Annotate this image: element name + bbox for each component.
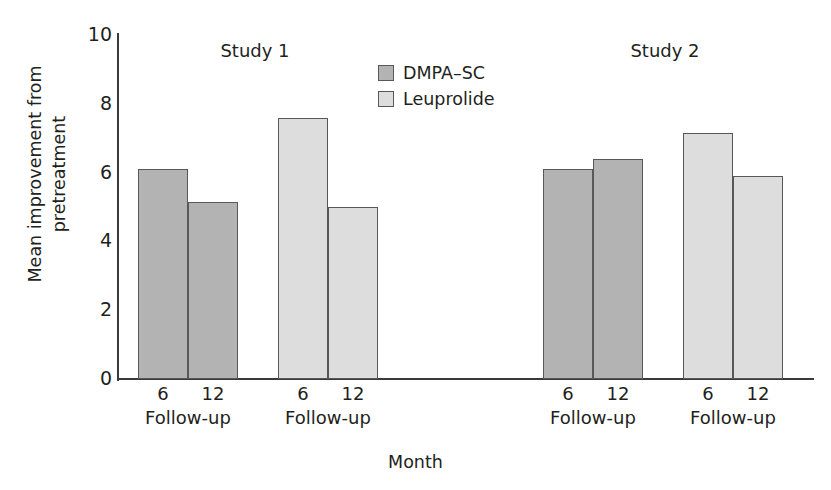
- x-tick-study2-leup-12: 12: [747, 384, 770, 404]
- x-axis-title: Month: [0, 452, 831, 472]
- y-tick-0: 0: [68, 369, 112, 388]
- x-tick-study1-dmpa-12: 12: [202, 384, 225, 404]
- bar-study2-leup-6: [683, 133, 733, 379]
- legend-label-leuprolide: Leuprolide: [403, 90, 495, 108]
- legend-swatch-icon-leuprolide: [378, 91, 394, 107]
- group-label-study2-leup: Follow-up: [690, 408, 776, 428]
- y-tick-6: 6: [68, 163, 112, 182]
- y-tick-10: 10: [68, 25, 112, 44]
- bar-study1-leup-12: [328, 207, 378, 379]
- y-tick-8: 8: [68, 94, 112, 113]
- y-tick-2: 2: [68, 300, 112, 319]
- bar-study2-dmpa-6: [543, 169, 593, 379]
- group-label-study1-leup: Follow-up: [285, 408, 371, 428]
- bar-study1-dmpa-12: [188, 202, 238, 379]
- group-label-study1-dmpa: Follow-up: [145, 408, 231, 428]
- legend-swatch-icon-dmpa-sc: [378, 65, 394, 81]
- x-tick-study1-leup-6: 6: [297, 384, 308, 404]
- legend-item-leuprolide: Leuprolide: [378, 88, 495, 110]
- x-tick-study2-dmpa-12: 12: [607, 384, 630, 404]
- bar-study2-dmpa-12: [593, 159, 643, 379]
- bar-study2-leup-12: [733, 176, 783, 379]
- y-tick-4: 4: [68, 231, 112, 250]
- panel-title-study-2: Study 2: [630, 41, 699, 61]
- legend-item-dmpa-sc: DMPA–SC: [378, 62, 495, 84]
- legend-label-dmpa-sc: DMPA–SC: [403, 64, 485, 82]
- x-tick-study1-dmpa-6: 6: [157, 384, 168, 404]
- bar-study1-leup-6: [278, 118, 328, 379]
- legend: DMPA–SC Leuprolide: [378, 62, 495, 114]
- bar-study1-dmpa-6: [138, 169, 188, 379]
- panel-title-study-1: Study 1: [220, 41, 289, 61]
- y-axis-title: Mean improvement from pretreatment: [23, 24, 71, 324]
- x-tick-study1-leup-12: 12: [342, 384, 365, 404]
- x-tick-study2-dmpa-6: 6: [562, 384, 573, 404]
- x-tick-study2-leup-6: 6: [702, 384, 713, 404]
- bar-chart-figure: 0 2 4 6 8 10 Mean improvement from pretr…: [0, 0, 831, 490]
- group-label-study2-dmpa: Follow-up: [550, 408, 636, 428]
